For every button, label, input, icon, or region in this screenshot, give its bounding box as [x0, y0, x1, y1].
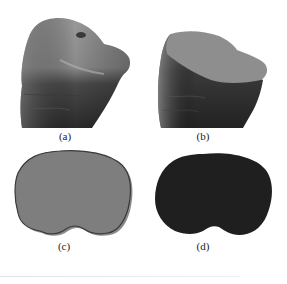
panel-d-filled-region: [143, 145, 287, 242]
scan-edge-line: [0, 276, 240, 277]
panel-a-caption: (a): [50, 130, 80, 142]
panel-c-caption: (c): [49, 240, 79, 252]
panel-b-cut-bone-model: [143, 0, 287, 132]
figure: (a) (b) (c) (d): [0, 0, 287, 284]
panel-c-contour-outline: [0, 145, 143, 242]
panel-b-caption: (b): [188, 130, 218, 142]
panel-d-caption: (d): [188, 240, 218, 252]
panel-a-bone-model: [0, 0, 143, 132]
